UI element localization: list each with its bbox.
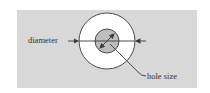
hole-size-label: hole size <box>147 72 177 81</box>
washer-diagram <box>0 0 210 93</box>
diameter-label: diameter <box>28 36 58 45</box>
